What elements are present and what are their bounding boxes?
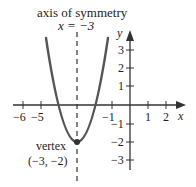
y-tick-label: −2 — [111, 136, 124, 148]
y-tick-label: −3 — [111, 154, 124, 166]
y-tick-label: −1 — [111, 118, 124, 130]
vertex-point — [74, 139, 80, 145]
y-axis-arrow-icon — [126, 30, 134, 41]
x-tick-label: 2 — [163, 111, 169, 123]
vertex-title: vertex — [36, 140, 66, 152]
x-axis-label: x — [178, 110, 183, 122]
y-tick-label: 1 — [118, 80, 124, 92]
x-tick-label: 1 — [145, 111, 151, 123]
vertex-coordinates: (−3, −2) — [28, 155, 68, 167]
y-tick-label: 3 — [118, 44, 124, 56]
x-tick-label: −6 — [13, 111, 26, 123]
x-axis-arrow-icon — [176, 101, 186, 109]
axis-equation-text: x = −3 — [58, 18, 94, 33]
y-axis-label: y — [117, 27, 122, 39]
y-tick-label: 2 — [118, 62, 124, 74]
axis-of-symmetry-equation: x = −3 — [58, 19, 94, 32]
x-tick-label: −5 — [31, 111, 44, 123]
